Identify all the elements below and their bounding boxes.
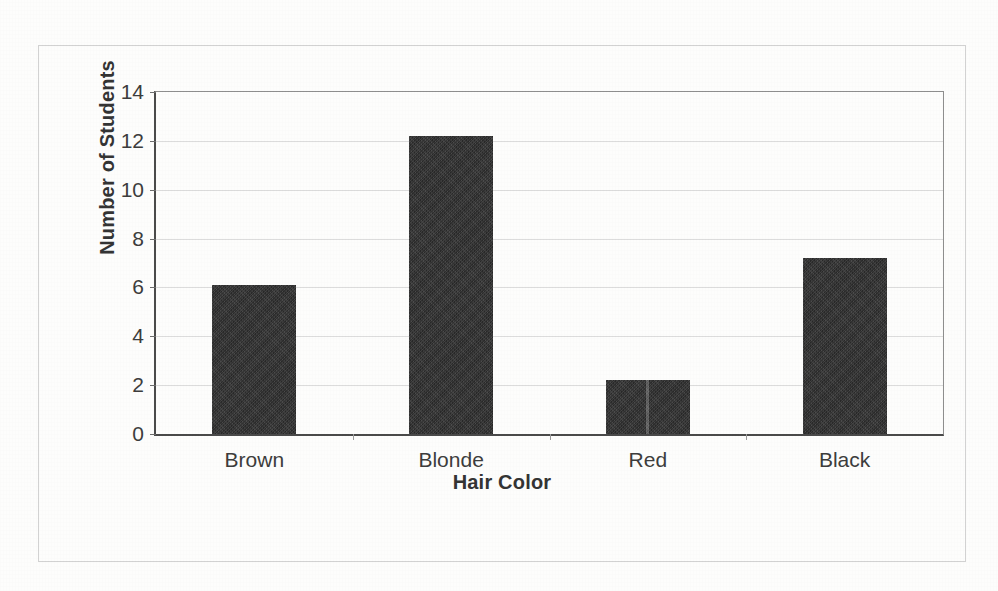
x-tick-label-brown: Brown [225, 448, 285, 472]
bar-brown [212, 285, 296, 434]
y-tick-mark [150, 385, 156, 386]
y-tick-label: 8 [132, 227, 144, 251]
y-tick-label: 10 [121, 178, 144, 202]
gridline [156, 190, 943, 191]
y-tick-label: 0 [132, 422, 144, 446]
y-tick-mark [150, 141, 156, 142]
y-tick-mark [150, 336, 156, 337]
y-tick-mark [150, 287, 156, 288]
gridline [156, 239, 943, 240]
x-tick-mark [746, 434, 747, 440]
bar-red [606, 380, 690, 434]
y-tick-label: 4 [132, 324, 144, 348]
y-tick-mark [150, 92, 156, 93]
y-tick-mark [150, 239, 156, 240]
y-tick-label: 12 [121, 129, 144, 153]
y-tick-label: 6 [132, 275, 144, 299]
plot-area: 02468101214 BrownBlondeRedBlack [154, 91, 944, 436]
x-tick-mark [353, 434, 354, 440]
bar-blonde [409, 136, 493, 434]
x-tick-label-blonde: Blonde [418, 448, 483, 472]
gridline [156, 141, 943, 142]
chart-outer-frame: Number of Students 02468101214 BrownBlon… [38, 45, 966, 562]
x-tick-label-black: Black [819, 448, 870, 472]
y-tick-mark [150, 434, 156, 435]
y-tick-mark [150, 190, 156, 191]
y-tick-label: 14 [121, 80, 144, 104]
chart-page: Number of Students 02468101214 BrownBlon… [0, 0, 998, 591]
scan-streak [646, 380, 649, 434]
bar-black [803, 258, 887, 434]
x-tick-mark [550, 434, 551, 440]
y-axis-title: Number of Students [96, 28, 119, 288]
y-tick-label: 2 [132, 373, 144, 397]
x-tick-label-red: Red [629, 448, 668, 472]
x-axis-title: Hair Color [39, 471, 965, 494]
